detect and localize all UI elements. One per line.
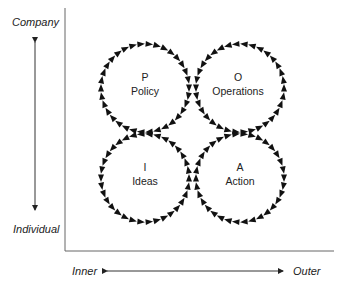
- arrowhead-icon: [98, 84, 104, 92]
- arrowhead-icon: [247, 216, 256, 224]
- arrowhead-icon: [216, 134, 225, 143]
- x-axis-right-label: Outer: [293, 265, 321, 277]
- arrowhead-icon: [178, 196, 187, 206]
- arrowhead-icon: [277, 190, 285, 199]
- arrowhead-icon: [153, 42, 162, 50]
- arrowhead-icon: [185, 76, 192, 84]
- arrowhead-icon: [280, 182, 287, 190]
- arrowhead-icon: [182, 189, 190, 198]
- arrowhead-icon: [255, 44, 264, 53]
- arrowhead-icon: [178, 60, 187, 70]
- arrowhead-icon: [145, 41, 153, 48]
- arrowhead-icon: [121, 44, 130, 53]
- arrowhead-icon: [224, 132, 233, 140]
- quadrant-policy-name: Policy: [105, 84, 185, 98]
- arrowhead-icon: [121, 213, 130, 222]
- arrowhead-icon: [198, 60, 207, 70]
- arrowhead-icon: [247, 42, 256, 50]
- arrowhead-icon: [100, 99, 108, 108]
- arrowhead-icon: [232, 218, 240, 225]
- arrowhead-icon: [137, 218, 145, 225]
- quadrant-operations: O Operations: [198, 70, 278, 98]
- quadrant-action-letter: A: [200, 160, 280, 174]
- arrowhead-icon: [186, 174, 192, 182]
- arrowhead-icon: [223, 42, 232, 50]
- arrowhead-icon: [103, 150, 112, 160]
- arrowhead-icon: [277, 99, 285, 108]
- arrowhead-icon: [232, 41, 240, 48]
- arrowhead-icon: [277, 67, 285, 76]
- arrowhead-icon: [195, 189, 203, 198]
- arrowhead-icon: [255, 213, 264, 222]
- arrowhead-icon: [198, 196, 207, 206]
- arrowhead-icon: [193, 174, 199, 182]
- arrowhead-icon: [281, 84, 287, 92]
- arrowhead-icon: [281, 175, 287, 183]
- arrowhead-icon: [103, 106, 112, 116]
- diagram-canvas: [0, 0, 348, 291]
- arrowhead-icon: [224, 126, 233, 134]
- arrowhead-icon: [98, 175, 104, 183]
- quadrant-action-name: Action: [200, 174, 280, 188]
- arrowhead-icon: [223, 216, 232, 224]
- arrowhead-icon: [145, 218, 153, 225]
- arrowhead-icon: [240, 218, 248, 225]
- arrowhead-icon: [129, 216, 138, 224]
- y-axis-bottom-label: Individual: [13, 223, 59, 235]
- y-axis-top-label: Company: [12, 16, 59, 28]
- arrowhead-icon: [100, 190, 108, 199]
- x-axis-left-label: Inner: [72, 265, 97, 277]
- arrowhead-icon: [129, 42, 138, 50]
- arrowhead-icon: [280, 166, 287, 174]
- quadrant-operations-letter: O: [198, 70, 278, 84]
- arrowhead-icon: [185, 92, 192, 100]
- quadrant-operations-name: Operations: [198, 84, 278, 98]
- arrowhead-icon: [152, 126, 161, 134]
- quadrant-policy: P Policy: [105, 70, 185, 98]
- quadrant-ideas-letter: I: [105, 160, 185, 174]
- arrowhead-icon: [280, 92, 287, 100]
- arrowhead-icon: [240, 41, 248, 48]
- arrowhead-icon: [182, 100, 190, 109]
- arrowhead-icon: [185, 182, 192, 190]
- quadrant-policy-letter: P: [105, 70, 185, 84]
- quadrant-ideas: I Ideas: [105, 160, 185, 188]
- arrowhead-icon: [152, 132, 161, 140]
- arrowhead-icon: [195, 100, 203, 109]
- arrowhead-icon: [216, 123, 225, 132]
- quadrant-action: A Action: [200, 160, 280, 188]
- arrowhead-icon: [273, 106, 282, 116]
- arrowhead-icon: [248, 132, 257, 140]
- arrowhead-icon: [185, 165, 192, 173]
- arrowhead-icon: [186, 85, 192, 93]
- arrowhead-icon: [160, 123, 169, 132]
- arrowhead-icon: [137, 41, 145, 48]
- arrowhead-icon: [280, 75, 287, 83]
- quadrant-ideas-name: Ideas: [105, 174, 185, 188]
- arrowhead-icon: [160, 134, 169, 143]
- arrowhead-icon: [128, 132, 137, 140]
- arrowhead-icon: [153, 216, 162, 224]
- arrowhead-icon: [273, 150, 282, 160]
